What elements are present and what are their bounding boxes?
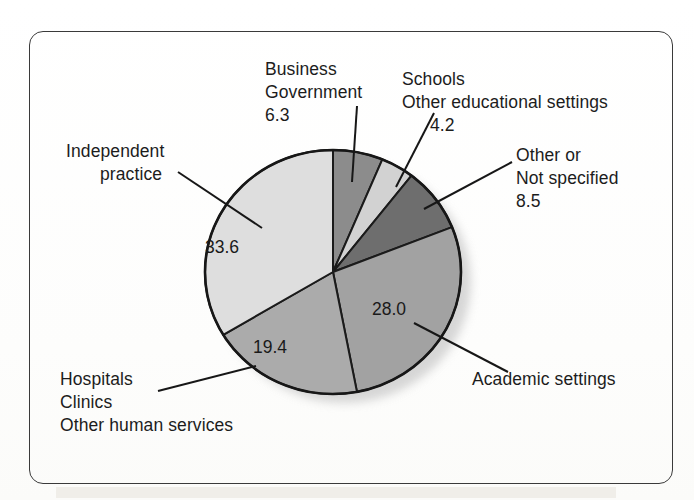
label-business-line1: Business <box>265 58 362 81</box>
label-other-value: 8.5 <box>516 190 618 213</box>
label-academic-settings: Academic settings <box>472 368 616 391</box>
label-hospitals-clinics: Hospitals Clinics Other human services <box>60 368 233 437</box>
label-academic-line1: Academic settings <box>472 368 616 391</box>
label-other-not-specified: Other or Not specified 8.5 <box>516 144 618 213</box>
label-independent-line1: Independent <box>66 140 164 163</box>
label-independent-line2: practice <box>66 163 164 186</box>
label-schools-line2: Other educational settings <box>402 91 608 114</box>
slice-value-independent-practice: 33.6 <box>205 237 239 257</box>
label-other-line1: Other or <box>516 144 618 167</box>
label-independent-practice: Independent practice <box>66 140 164 186</box>
label-business-government: Business Government 6.3 <box>265 58 362 127</box>
slice-value-academic-settings: 28.0 <box>372 299 406 319</box>
label-business-value: 6.3 <box>265 104 362 127</box>
figure-page: Business Government 6.3 Schools Other ed… <box>0 0 694 500</box>
label-schools-education: Schools Other educational settings 4.2 <box>402 68 608 137</box>
label-hospitals-line1: Hospitals <box>60 368 233 391</box>
label-hospitals-line3: Other human services <box>60 414 233 437</box>
label-hospitals-line2: Clinics <box>60 391 233 414</box>
label-business-line2: Government <box>265 81 362 104</box>
leader-line-other-not-specified <box>424 162 512 209</box>
label-other-line2: Not specified <box>516 167 618 190</box>
label-schools-value: 4.2 <box>402 114 608 137</box>
pie-chart: Business Government 6.3 Schools Other ed… <box>0 0 694 500</box>
slice-value-hospitals-clinics: 19.4 <box>253 337 287 357</box>
label-schools-line1: Schools <box>402 68 608 91</box>
